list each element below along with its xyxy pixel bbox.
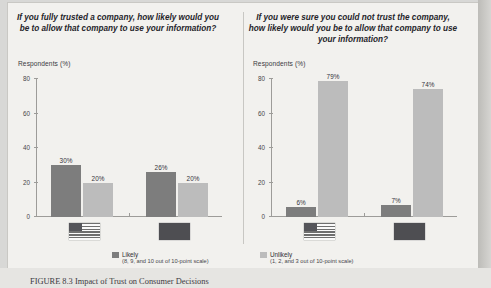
bar-likely-second-country: 26% bbox=[146, 172, 176, 217]
bar-value-likely-us: 6% bbox=[296, 199, 305, 206]
y-tick-0: 0 bbox=[34, 216, 38, 217]
second-country-flag-icon bbox=[158, 222, 191, 241]
y-tick-80: 80 bbox=[269, 78, 273, 79]
legend-swatch-unlikely bbox=[260, 252, 267, 258]
y-tick-60: 60 bbox=[269, 113, 273, 114]
bar-unlikely-us: 79% bbox=[318, 81, 348, 217]
y-tick-label-80: 80 bbox=[23, 75, 30, 82]
chart-legend: Likely (8, 9, and 10 out of 10-point sca… bbox=[112, 251, 412, 269]
bar-value-unlikely-us: 79% bbox=[327, 73, 340, 80]
y-axis-label-trusted: Respondents (%) bbox=[18, 60, 70, 67]
y-tick-label-40: 40 bbox=[23, 144, 30, 151]
plot-area-not-trusted: 0 20 40 60 80 6% 79% bbox=[271, 79, 457, 217]
figure-page: If you fully trusted a company, how like… bbox=[0, 0, 491, 288]
bar-value-likely-second-country: 7% bbox=[391, 197, 400, 204]
bar-likely-us: 30% bbox=[51, 165, 81, 217]
bar-group-us: 30% 20% bbox=[51, 79, 113, 217]
legend-label-likely: Likely bbox=[122, 251, 138, 258]
bar-unlikely-us: 20% bbox=[83, 183, 113, 218]
y-tick-label-20: 20 bbox=[23, 178, 30, 185]
chart-title-not-trusted: If you were sure you could not trust the… bbox=[247, 12, 459, 45]
legend-label-unlikely: Unlikely bbox=[270, 251, 292, 258]
y-tick-label-0: 0 bbox=[26, 213, 30, 220]
bar-value-unlikely-second-country: 74% bbox=[422, 81, 435, 88]
y-tick-label-60: 60 bbox=[23, 109, 30, 116]
y-axis-line bbox=[36, 79, 37, 217]
page-right-edge bbox=[478, 0, 491, 288]
y-tick-80: 80 bbox=[34, 78, 38, 79]
bar-group-second-country: 7% 74% bbox=[381, 79, 443, 217]
y-tick-40: 40 bbox=[34, 147, 38, 148]
bar-value-unlikely-us: 20% bbox=[92, 175, 105, 182]
y-axis-label-not-trusted: Respondents (%) bbox=[253, 60, 305, 67]
bar-value-likely-second-country: 26% bbox=[155, 164, 168, 171]
legend-sub-likely: (8, 9, and 10 out of 10-point scale) bbox=[122, 258, 209, 264]
bar-likely-us: 6% bbox=[286, 207, 316, 217]
bar-likely-second-country: 7% bbox=[381, 205, 411, 217]
legend-swatch-likely bbox=[112, 252, 119, 258]
y-tick-0: 0 bbox=[269, 216, 273, 217]
y-tick-label-0: 0 bbox=[261, 213, 265, 220]
bar-group-second-country: 26% 20% bbox=[146, 79, 208, 217]
legend-sub-unlikely: (1, 2, and 3 out of 10-point scale) bbox=[270, 258, 353, 264]
second-country-flag-icon bbox=[393, 222, 426, 241]
bar-unlikely-second-country: 74% bbox=[413, 89, 443, 217]
chart-not-trusted: If you were sure you could not trust the… bbox=[235, 0, 470, 265]
group-separator bbox=[129, 213, 130, 217]
chart-title-trusted: If you fully trusted a company, how like… bbox=[12, 12, 224, 34]
united-states-flag-icon bbox=[303, 222, 336, 241]
bar-group-us: 6% 79% bbox=[286, 79, 348, 217]
y-tick-20: 20 bbox=[34, 182, 38, 183]
y-tick-label-60: 60 bbox=[258, 109, 265, 116]
bar-value-unlikely-second-country: 20% bbox=[187, 175, 200, 182]
plot-area-trusted: 0 20 40 60 80 30% 20% bbox=[36, 79, 222, 217]
bar-unlikely-second-country: 20% bbox=[178, 183, 208, 218]
y-tick-20: 20 bbox=[269, 182, 273, 183]
y-tick-label-20: 20 bbox=[258, 178, 265, 185]
y-tick-60: 60 bbox=[34, 113, 38, 114]
united-states-flag-icon bbox=[68, 222, 101, 241]
y-tick-40: 40 bbox=[269, 147, 273, 148]
y-tick-label-40: 40 bbox=[258, 144, 265, 151]
y-axis-line bbox=[271, 79, 272, 217]
y-tick-label-80: 80 bbox=[258, 75, 265, 82]
group-separator bbox=[364, 213, 365, 217]
figure-caption: FIGURE 8.3 Impact of Trust on Consumer D… bbox=[30, 277, 360, 287]
bar-value-likely-us: 30% bbox=[60, 157, 73, 164]
chart-trusted: If you fully trusted a company, how like… bbox=[0, 0, 235, 265]
